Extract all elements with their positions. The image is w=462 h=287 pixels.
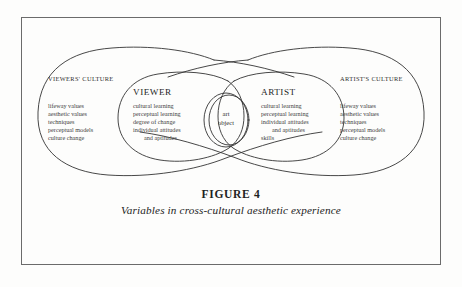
list-item: skills <box>261 134 309 142</box>
venn-diagram <box>0 0 462 287</box>
list-item: culture change <box>48 134 114 142</box>
list-item: and aptitudes <box>261 126 309 134</box>
viewers-culture-title: VIEWERS' CULTURE <box>48 75 114 83</box>
artists-culture-title: ARTIST'S CULTURE <box>340 75 403 83</box>
list-item: aesthetic values <box>48 110 114 118</box>
list-item: culture change <box>340 134 403 142</box>
list-item: techniques <box>48 118 114 126</box>
art-object-line-2: object <box>206 119 246 128</box>
list-item: lifeway values <box>340 102 403 110</box>
region-artists-culture: ARTIST'S CULTURE lifeway values aestheti… <box>340 75 403 142</box>
list-item: techniques <box>340 118 403 126</box>
figure-number: FIGURE 4 <box>21 188 441 200</box>
list-item: perceptual models <box>340 126 403 134</box>
artist-items: cultural learning perceptual learning in… <box>261 102 309 142</box>
list-item: and aptitudes <box>133 134 181 142</box>
figure-title: Variables in cross-cultural aesthetic ex… <box>21 204 441 216</box>
artist-title: ARTIST <box>261 87 309 98</box>
viewer-title: VIEWER <box>133 87 181 98</box>
list-item: lifeway values <box>48 102 114 110</box>
figure-caption: FIGURE 4 Variables in cross-cultural aes… <box>21 188 441 216</box>
list-item: cultural learning <box>261 102 309 110</box>
list-item: individual attitudes <box>261 118 309 126</box>
list-item: perceptual models <box>48 126 114 134</box>
list-item: perceptual learning <box>133 110 181 118</box>
art-object-label: art object <box>206 110 246 127</box>
list-item: individual attitudes <box>133 126 181 134</box>
list-item: aesthetic values <box>340 110 403 118</box>
region-viewers-culture: VIEWERS' CULTURE lifeway values aestheti… <box>48 75 114 142</box>
region-viewer: VIEWER cultural learning perceptual lear… <box>133 87 181 142</box>
viewer-items: cultural learning perceptual learning de… <box>133 102 181 142</box>
viewers-culture-items: lifeway values aesthetic values techniqu… <box>48 102 114 142</box>
list-item: degree of change <box>133 118 181 126</box>
figure-page: VIEWERS' CULTURE lifeway values aestheti… <box>0 0 462 287</box>
region-artist: ARTIST cultural learning perceptual lear… <box>261 87 309 142</box>
artists-culture-items: lifeway values aesthetic values techniqu… <box>340 102 403 142</box>
art-object-line-1: art <box>206 110 246 119</box>
list-item: perceptual learning <box>261 110 309 118</box>
list-item: cultural learning <box>133 102 181 110</box>
